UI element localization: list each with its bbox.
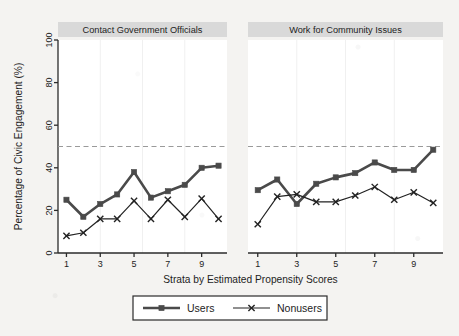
x-tick-label-left-7: 7	[165, 259, 170, 269]
y-tick-label-100: 100	[44, 32, 54, 47]
datapoint-left-users-6	[148, 195, 153, 200]
datapoint-left-users-1	[64, 197, 69, 202]
datapoint-left-users-3	[98, 201, 103, 206]
datapoint-left-users-5	[131, 169, 136, 174]
datapoint-right-users-1	[255, 188, 260, 193]
datapoint-right-users-6	[353, 171, 358, 176]
y-tick-label-60: 60	[44, 120, 54, 130]
x-tick-label-left-3: 3	[98, 259, 103, 269]
legend-marker-users-square-icon	[159, 305, 164, 310]
x-tick-label-right-5: 5	[333, 259, 338, 269]
datapoint-left-users-9	[199, 165, 204, 170]
y-tick-label-80: 80	[44, 78, 54, 88]
y-axis-title: Percentage of Civic Engagement (%)	[13, 63, 24, 231]
datapoint-right-users-4	[314, 181, 319, 186]
panel-title-bands: Contact Government OfficialsWork for Com…	[58, 22, 443, 37]
x-axis-left: 13579	[58, 253, 227, 269]
civic-engagement-panel-chart: Contact Government OfficialsWork for Com…	[0, 0, 459, 336]
datapoint-right-users-10	[431, 147, 436, 152]
legend-label-nonusers: Nonusers	[277, 302, 322, 314]
datapoint-left-users-8	[182, 182, 187, 187]
y-tick-label-20: 20	[44, 205, 54, 215]
y-tick-label-0: 0	[44, 250, 54, 255]
panel-title-right: Work for Community Issues	[289, 25, 402, 35]
datapoint-right-users-5	[333, 175, 338, 180]
legend-label-users: Users	[187, 302, 214, 314]
y-axis: 020406080100Percentage of Civic Engageme…	[13, 32, 58, 255]
x-tick-label-left-9: 9	[199, 259, 204, 269]
x-axis-title-group: Strata by Estimated Propensity Scores	[163, 274, 337, 285]
x-tick-label-right-1: 1	[255, 259, 260, 269]
x-tick-label-left-5: 5	[132, 259, 137, 269]
datapoint-left-users-2	[81, 214, 86, 219]
y-tick-label-40: 40	[44, 163, 54, 173]
legend: UsersNonusers	[133, 296, 327, 320]
datapoint-right-users-8	[392, 167, 397, 172]
x-axis-title: Strata by Estimated Propensity Scores	[163, 274, 337, 285]
x-axis-right: 13579	[248, 253, 443, 269]
datapoint-right-users-7	[372, 160, 377, 165]
x-tick-label-right-3: 3	[294, 259, 299, 269]
datapoint-right-users-9	[411, 167, 416, 172]
datapoint-right-users-3	[294, 201, 299, 206]
x-tick-label-right-9: 9	[411, 259, 416, 269]
datapoint-right-users-2	[275, 177, 280, 182]
datapoint-left-users-4	[115, 192, 120, 197]
datapoint-left-users-7	[165, 189, 170, 194]
datapoint-left-users-10	[216, 163, 221, 168]
x-tick-label-left-1: 1	[64, 259, 69, 269]
panel-title-left: Contact Government Officials	[83, 25, 203, 35]
x-tick-label-right-7: 7	[372, 259, 377, 269]
chart-figure: Contact Government OfficialsWork for Com…	[0, 0, 459, 336]
